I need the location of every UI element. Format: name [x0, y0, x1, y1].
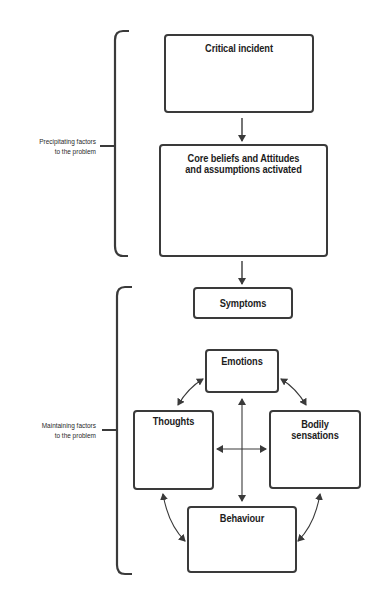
bodily-sensations-box: Bodily sensations	[269, 410, 361, 489]
arrow-emotions-bodily	[281, 379, 306, 405]
maintaining-factors-label: Maintaining factors to the problem	[13, 421, 96, 440]
emotions-box: Emotions	[205, 349, 279, 393]
emotions-title: Emotions	[211, 356, 273, 368]
behaviour-box: Behaviour	[187, 506, 297, 573]
critical-incident-box: Critical incident	[164, 34, 314, 113]
maintaining-label-line1: Maintaining factors	[13, 421, 96, 431]
maintaining-label-line2: to the problem	[13, 431, 96, 441]
arrow-bodily-behaviour	[298, 494, 320, 541]
symptoms-title: Symptoms	[201, 298, 285, 310]
symptoms-box: Symptoms	[193, 287, 293, 319]
bodily-title-line2: sensations	[276, 430, 353, 442]
core-beliefs-title-line2: and assumptions activated	[171, 164, 316, 176]
maintaining-bracket	[117, 287, 132, 574]
thoughts-title: Thoughts	[140, 416, 208, 428]
precipitating-factors-label: Precipitating factors to the problem	[13, 137, 96, 156]
critical-incident-title: Critical incident	[175, 43, 303, 55]
arrow-emotions-thoughts	[178, 379, 203, 405]
core-beliefs-box: Core beliefs and Attitudes and assumptio…	[159, 144, 328, 257]
behaviour-title: Behaviour	[195, 513, 288, 525]
precipitating-label-line1: Precipitating factors	[13, 137, 96, 147]
precipitating-label-line2: to the problem	[13, 147, 96, 157]
precipitating-bracket	[115, 31, 129, 256]
arrow-thoughts-behaviour	[163, 494, 185, 541]
thoughts-box: Thoughts	[133, 410, 214, 490]
